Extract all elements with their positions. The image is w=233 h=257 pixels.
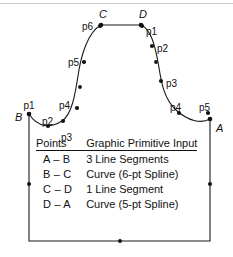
table-row: C – D1 Line Segment xyxy=(36,181,197,196)
point-label-d-a-p3: p3 xyxy=(166,79,177,89)
cell-graphic-primitive-input: 1 Line Segment xyxy=(86,181,197,196)
outline-figure-svg xyxy=(0,0,233,257)
table-header-row: Points Graphic Primitive Input xyxy=(36,137,197,151)
point-label-d-a-p1: p1 xyxy=(146,27,157,37)
figure-root: p1p2p3p4p5p6p1p2p3p4p5ABCD Points Graphi… xyxy=(0,0,233,257)
control-point-dot-b-c-p5 xyxy=(82,60,86,64)
point-label-b-c-p5: p5 xyxy=(68,58,79,68)
point-label-d-a-p5: p5 xyxy=(199,103,210,113)
vertex-label-C: C xyxy=(99,9,107,20)
vertex-dot-C xyxy=(99,23,104,28)
table-row: A – B3 Line Segments xyxy=(36,151,197,167)
control-point-dot-b-c-p4 xyxy=(75,106,79,110)
point-label-b-c-p2: p2 xyxy=(42,117,53,127)
control-point-dot-d-a-p3 xyxy=(159,79,163,83)
cell-points: A – B xyxy=(36,151,86,167)
table-row: B – CCurve (6-pt Spline) xyxy=(36,166,197,181)
cell-graphic-primitive-input: Curve (6-pt Spline) xyxy=(86,166,197,181)
primitives-table: Points Graphic Primitive Input A – B3 Li… xyxy=(36,137,197,211)
vertex-dot-B xyxy=(27,112,32,117)
midpoint-marker-left-vertical xyxy=(27,182,31,186)
vertex-dot-A xyxy=(208,117,213,122)
point-label-b-c-p6: p6 xyxy=(82,22,93,32)
point-label-b-c-p1: p1 xyxy=(23,101,34,111)
cell-graphic-primitive-input: Curve (5-pt Spline) xyxy=(86,196,197,211)
curve-marker-b-c xyxy=(78,85,82,89)
curve-marker-d-a xyxy=(154,60,158,64)
midpoint-marker-bottom-horizontal xyxy=(118,239,122,243)
cell-points: D – A xyxy=(36,196,86,211)
cell-points: C – D xyxy=(36,181,86,196)
header-graphic-primitive-input: Graphic Primitive Input xyxy=(86,137,197,151)
cell-points: B – C xyxy=(36,166,86,181)
point-label-d-a-p4: p4 xyxy=(170,103,181,113)
primitives-table-block: Points Graphic Primitive Input A – B3 Li… xyxy=(36,137,208,211)
point-label-b-c-p4: p4 xyxy=(59,101,70,111)
table-head: Points Graphic Primitive Input xyxy=(36,137,197,151)
vertex-label-A: A xyxy=(216,123,223,134)
vertex-label-D: D xyxy=(139,9,147,20)
table-body: A – B3 Line SegmentsB – CCurve (6-pt Spl… xyxy=(36,151,197,212)
header-points: Points xyxy=(36,137,86,151)
control-point-dot-b-c-p3 xyxy=(61,119,65,123)
vertex-dot-D xyxy=(139,23,144,28)
point-label-d-a-p2: p2 xyxy=(157,44,168,54)
control-point-dot-d-a-p2 xyxy=(150,44,154,48)
midpoint-marker-right-vertical xyxy=(208,182,212,186)
table-row: D – ACurve (5-pt Spline) xyxy=(36,196,197,211)
vertex-label-B: B xyxy=(15,112,22,123)
cell-graphic-primitive-input: 3 Line Segments xyxy=(86,151,197,167)
